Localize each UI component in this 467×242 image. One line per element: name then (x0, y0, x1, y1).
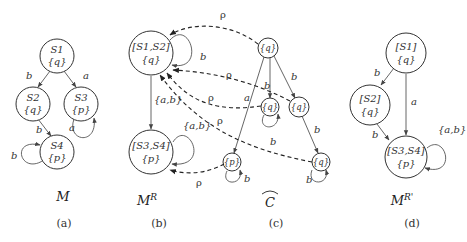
svg-text:S3: S3 (74, 92, 87, 103)
cover-node-p: {p} (223, 153, 241, 171)
edge-label: b (36, 124, 42, 135)
edge-s1-s3 (64, 71, 76, 87)
state-node-s3s4: [S3,S4] {p} (129, 130, 173, 174)
diagram-canvas: b a b a b S1 {q} S2 {q} S3 {p} S4 {p} M … (0, 0, 467, 242)
svg-text:{p}: {p} (224, 157, 240, 167)
svg-text:[S1,S2]: [S1,S2] (132, 41, 170, 52)
state-node-s3s4: [S3,S4] {p} (385, 136, 427, 178)
state-node-s1: S1 {q} (40, 39, 74, 73)
edge-label: b (200, 51, 206, 62)
edge-label: b (270, 136, 276, 147)
svg-text:S2: S2 (26, 92, 39, 103)
edge-label: b (314, 124, 320, 135)
edge-label: a (244, 92, 250, 103)
svg-text:{p}: {p} (396, 158, 415, 169)
state-node-s3: S3 {p} (64, 87, 98, 121)
edge-c0-c3 (234, 57, 264, 153)
edge-label: b (374, 67, 380, 78)
svg-text:{q}: {q} (141, 54, 160, 65)
cover-node-mid: {q} (261, 98, 279, 116)
edge-label: a (69, 122, 75, 133)
loop-s3s4 (425, 145, 446, 170)
rho-label: ρ (220, 9, 226, 20)
loop-c4 (311, 170, 326, 182)
panel-caption: (b) (151, 217, 167, 230)
edge-label: a (83, 70, 89, 81)
edge-s1-s2 (38, 71, 50, 87)
rho-link (170, 164, 224, 173)
panel-title: C (262, 191, 278, 210)
edge-label: b (26, 70, 32, 81)
svg-text:[S3,S4]: [S3,S4] (387, 145, 425, 156)
svg-text:S4: S4 (50, 140, 63, 151)
edge-label: b (291, 71, 297, 82)
svg-text:{p}: {p} (47, 152, 66, 163)
panel-caption: (d) (404, 217, 420, 230)
state-node-s1: [S1] {q} (386, 33, 426, 73)
edge-label: b (11, 150, 17, 161)
cover-node-root: {q} (258, 38, 278, 58)
svg-text:S1: S1 (50, 44, 63, 55)
panel-title: MR' (390, 192, 414, 208)
panel-a: b a b a b S1 {q} S2 {q} S3 {p} S4 {p} M … (11, 39, 98, 230)
svg-text:{p}: {p} (141, 153, 160, 164)
state-node-s4: S4 {p} (40, 135, 74, 169)
state-node-s1s2: [S1,S2] {q} (129, 31, 173, 75)
rho-label: ρ (226, 69, 232, 80)
state-node-s2: S2 {q} (16, 87, 50, 121)
panel-c: a b b b b b b {q} {q} {q} {p} {q} C (223, 38, 330, 230)
svg-text:{q}: {q} (47, 56, 66, 67)
svg-text:{q}: {q} (313, 157, 329, 167)
rho-link (160, 75, 312, 162)
rho-label: ρ (208, 92, 214, 103)
panel-caption: (c) (269, 217, 284, 230)
edge-label: b (244, 173, 250, 184)
edge-s2-s3s4 (377, 124, 389, 140)
edge-label: b (306, 174, 312, 185)
panel-b: b {a,b} {a,b} [S1,S2] {q} [S3,S4] {p} MR… (129, 31, 211, 230)
panel-caption: (a) (56, 217, 71, 230)
svg-text:{q}: {q} (360, 106, 379, 117)
state-node-s2: [S2] {q} (350, 85, 390, 125)
edge-label: b (372, 129, 378, 140)
edge-label: {a,b} (154, 94, 182, 105)
panel-title: MR (136, 192, 157, 208)
svg-text:{q}: {q} (396, 54, 415, 65)
svg-text:C: C (265, 195, 275, 210)
edge-label: b (264, 80, 270, 91)
panel-title: M (55, 189, 70, 204)
svg-text:{p}: {p} (71, 104, 90, 115)
svg-text:[S1]: [S1] (395, 41, 416, 52)
edge-s1-s2 (381, 68, 394, 85)
cover-node-right: {q} (289, 97, 309, 117)
edge-label: a (411, 96, 417, 107)
rho-label: ρ (217, 115, 223, 126)
svg-text:{q}: {q} (23, 104, 42, 115)
edge-label: {a,b} (438, 124, 466, 135)
svg-text:{q}: {q} (260, 43, 276, 53)
svg-text:{q}: {q} (291, 102, 307, 112)
cover-node-bottom: {q} (312, 153, 330, 171)
loop-c3 (226, 170, 241, 182)
panel-d: b a b {a,b} [S1] {q} [S2] {q} [S3,S4] {p… (350, 33, 466, 230)
rho-label: ρ (196, 177, 202, 188)
svg-text:[S3,S4]: [S3,S4] (132, 140, 170, 151)
svg-text:[S2]: [S2] (359, 93, 380, 104)
svg-text:{q}: {q} (262, 102, 278, 112)
loop-s3s4 (172, 135, 194, 164)
hat-accent (262, 191, 278, 194)
